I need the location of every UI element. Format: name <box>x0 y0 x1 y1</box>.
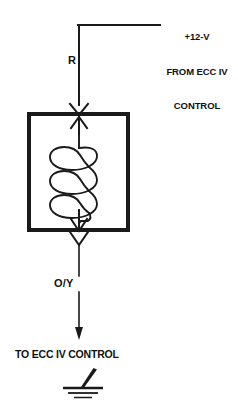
wire-code-oy-label: O/Y <box>52 277 76 289</box>
ground-symbol-icon <box>63 368 103 398</box>
output-wire-group <box>75 245 83 340</box>
solenoid-coil-icon <box>50 134 97 228</box>
wiring-diagram: +12-V FROM ECC IV CONTROL R O/Y TO ECC I… <box>0 0 238 409</box>
supply-voltage-text: +12-V <box>158 31 236 43</box>
wire-code-r-label: R <box>66 54 78 66</box>
supply-source-label: +12-V FROM ECC IV CONTROL <box>158 8 236 135</box>
destination-label: TO ECC IV CONTROL <box>15 348 119 360</box>
supply-wire-group <box>78 25 160 105</box>
supply-from-text: FROM ECC IV <box>158 66 236 78</box>
supply-control-text: CONTROL <box>158 100 236 112</box>
output-arrowhead-icon <box>75 327 83 340</box>
input-connector-icon <box>70 104 88 134</box>
